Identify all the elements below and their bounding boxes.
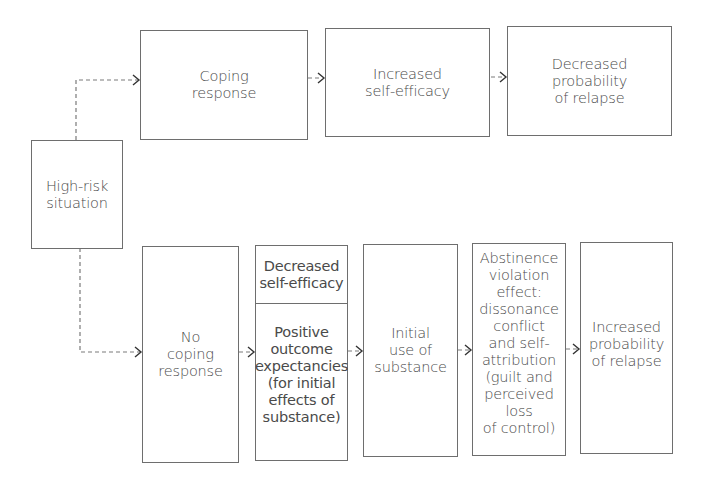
node-label: Decreased self-efficacy (259, 258, 343, 292)
arrowhead-icon (133, 75, 139, 85)
arrowhead-icon (248, 347, 254, 357)
node-increased-self-efficacy: Increased self-efficacy (325, 28, 490, 137)
node-high-risk-situation: High-risk situation (31, 140, 123, 249)
node-initial-use-of-substance: Initial use of substance (363, 244, 458, 457)
arrowhead-icon (318, 73, 324, 83)
node-coping-response: Coping response (140, 30, 308, 140)
node-decreased-self-efficacy: Decreased self-efficacy (256, 246, 347, 303)
arrowhead-icon (465, 345, 471, 355)
connector-highrisk-to-nocoping (80, 248, 140, 352)
node-label: No coping response (158, 329, 222, 380)
arrowhead-icon (356, 346, 362, 356)
node-label: Coping response (192, 68, 256, 102)
node-label: Abstinence violation effect: dissonance … (473, 250, 565, 437)
arrowhead-icon (135, 347, 141, 357)
node-label: Positive outcome expectancies (for initi… (255, 324, 348, 426)
node-self-efficacy-and-expectancies: Decreased self-efficacy Positive outcome… (255, 245, 348, 461)
connector-highrisk-to-coping (76, 80, 138, 140)
node-decreased-probability-of-relapse: Decreased probability of relapse (507, 26, 672, 136)
arrowhead-icon (500, 72, 506, 82)
node-increased-probability-of-relapse: Increased probability of relapse (580, 242, 673, 454)
node-label: Initial use of substance (374, 325, 446, 376)
node-label: Increased self-efficacy (365, 66, 450, 100)
node-label: Decreased probability of relapse (552, 56, 627, 107)
node-positive-outcome-expectancies: Positive outcome expectancies (for initi… (256, 304, 347, 460)
node-no-coping-response: No coping response (142, 246, 239, 463)
node-abstinence-violation-effect: Abstinence violation effect: dissonance … (472, 243, 566, 456)
node-label: High-risk situation (46, 178, 108, 212)
arrowhead-icon (573, 344, 579, 354)
node-label: Increased probability of relapse (589, 319, 664, 370)
